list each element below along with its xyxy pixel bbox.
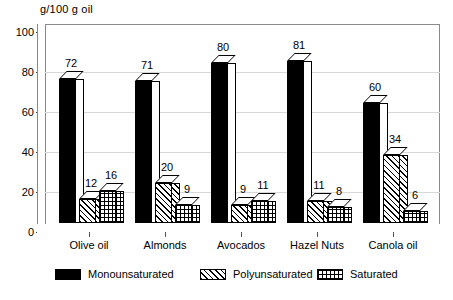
bar[interactable]: 20 <box>155 183 172 223</box>
bar[interactable]: 9 <box>231 205 248 223</box>
y-tick-label: 80 <box>22 66 34 78</box>
y-tick-label: 20 <box>22 186 34 198</box>
bar-value-label: 8 <box>326 185 352 197</box>
bar-front-face <box>327 207 344 223</box>
category-label: Olive oil <box>69 239 108 251</box>
category-tick <box>89 232 90 237</box>
plot-area: 72121671209809118111860346 <box>45 24 440 232</box>
bar-front-face <box>307 201 324 223</box>
bar-front-face <box>59 79 76 223</box>
legend-label: Saturated <box>350 268 398 280</box>
legend-item[interactable]: Polyunsaturated <box>200 268 313 280</box>
bar-top-face <box>287 53 312 61</box>
bar-group: 71209 <box>135 32 195 232</box>
bar-top-face <box>211 55 236 63</box>
bar-value-label: 11 <box>250 179 276 191</box>
legend-label: Polyunsaturated <box>233 268 313 280</box>
bar-side-face <box>192 205 200 223</box>
bar[interactable]: 8 <box>327 207 344 223</box>
chart-unit-title: g/100 g oil <box>40 3 93 15</box>
plot-depth-wall <box>37 32 45 232</box>
legend-item[interactable]: Saturated <box>317 268 398 280</box>
bar-front-face <box>403 211 420 223</box>
legend-label: Monounsaturated <box>88 268 174 280</box>
category-label: Almonds <box>144 239 187 251</box>
legend-item[interactable]: Monounsaturated <box>55 268 174 280</box>
bar[interactable]: 16 <box>99 191 116 223</box>
bar-side-face <box>344 207 352 223</box>
bar-value-label: 72 <box>58 57 84 69</box>
y-tick-label: 40 <box>22 146 34 158</box>
bar[interactable]: 60 <box>363 103 380 223</box>
bar-side-face <box>268 201 276 223</box>
category-label: Hazel Nuts <box>290 239 344 251</box>
bar[interactable]: 6 <box>403 211 420 223</box>
bar-front-face <box>251 201 268 223</box>
bar-value-label: 6 <box>402 189 428 201</box>
bar-front-face <box>79 199 96 223</box>
bar-front-face <box>99 191 116 223</box>
bar[interactable]: 81 <box>287 61 304 223</box>
bar-front-face <box>231 205 248 223</box>
bar-value-label: 16 <box>98 169 124 181</box>
bar-top-face <box>363 95 388 103</box>
bar[interactable]: 12 <box>79 199 96 223</box>
bar-front-face <box>287 61 304 223</box>
category-tick <box>393 232 394 237</box>
bar-value-label: 20 <box>154 161 180 173</box>
category-label: Avocados <box>217 239 265 251</box>
bar-value-label: 34 <box>382 133 408 145</box>
bar-top-face <box>135 73 160 81</box>
bar-side-face <box>228 63 236 223</box>
bar-side-face <box>420 211 428 223</box>
bar-value-label: 81 <box>286 39 312 51</box>
bar-group: 81118 <box>287 32 347 232</box>
legend-swatch-solid <box>55 269 81 280</box>
bar[interactable]: 11 <box>251 201 268 223</box>
bar[interactable]: 71 <box>135 81 152 223</box>
bar[interactable]: 72 <box>59 79 76 223</box>
bar-front-face <box>383 155 400 223</box>
category-label: Canola oil <box>369 239 418 251</box>
category-tick <box>317 232 318 237</box>
bar-front-face <box>211 63 228 223</box>
bar-front-face <box>135 81 152 223</box>
bar-top-face <box>59 71 84 79</box>
bar-group: 721216 <box>59 32 119 232</box>
legend-swatch-grid <box>317 269 343 280</box>
y-tick-label: 100 <box>16 26 34 38</box>
bar-front-face <box>155 183 172 223</box>
bar-value-label: 80 <box>210 41 236 53</box>
bar[interactable]: 34 <box>383 155 400 223</box>
bar-group: 60346 <box>363 32 423 232</box>
bar[interactable]: 11 <box>307 201 324 223</box>
bar-chart: g/100 g oil 020406080100 721216712098091… <box>0 0 453 300</box>
bar-side-face <box>116 191 124 223</box>
chart-legend: MonounsaturatedPolyunsaturatedSaturated <box>0 268 453 292</box>
bar-front-face <box>175 205 192 223</box>
y-tick-label: 0 <box>28 226 34 238</box>
bar-value-label: 71 <box>134 59 160 71</box>
bar[interactable]: 9 <box>175 205 192 223</box>
bar-front-face <box>363 103 380 223</box>
bar[interactable]: 80 <box>211 63 228 223</box>
bar-value-label: 60 <box>362 81 388 93</box>
legend-swatch-diagonal <box>200 269 226 280</box>
category-tick <box>241 232 242 237</box>
category-tick <box>165 232 166 237</box>
bar-group: 80911 <box>211 32 271 232</box>
bar-value-label: 9 <box>174 183 200 195</box>
y-tick-label: 60 <box>22 106 34 118</box>
